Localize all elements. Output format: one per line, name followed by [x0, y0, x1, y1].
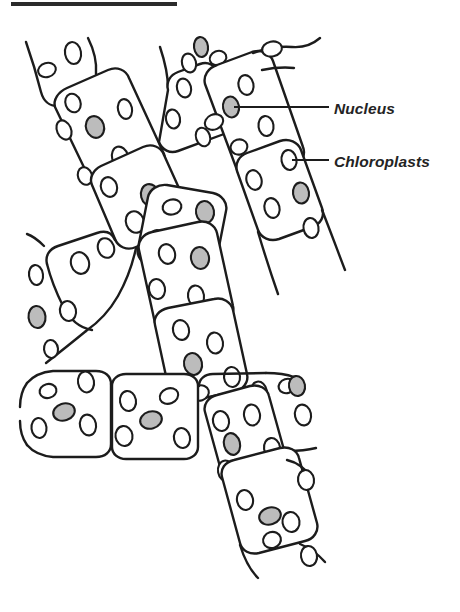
chloroplast: [76, 370, 95, 393]
nucleus-label: Nucleus: [334, 100, 395, 117]
filament-end-stub-center-bottom-2: [258, 232, 278, 294]
filament-end-stub-left-2: [20, 421, 27, 445]
nucleus: [51, 401, 77, 424]
chloroplast: [38, 382, 58, 400]
chloroplast: [36, 61, 57, 79]
chloroplast: [63, 41, 83, 65]
cell-wall-open: [86, 248, 136, 331]
chloroplast: [261, 40, 284, 59]
chloroplast: [78, 413, 98, 437]
chloroplast: [223, 366, 241, 388]
nucleus: [193, 36, 210, 58]
top-rule-bar: [11, 2, 177, 6]
filament-end-stub-center-top: [160, 47, 168, 88]
nucleus: [287, 375, 306, 397]
filament-end-stub-upper-left-2: [88, 38, 96, 74]
filament-end-stub-right: [266, 373, 294, 377]
nucleus: [27, 305, 46, 329]
algae-cell-diagram: Nucleus Chloroplasts: [0, 0, 460, 612]
chloroplast: [43, 339, 59, 358]
filament-end-stub-center-bottom: [322, 210, 345, 270]
chloroplast: [28, 264, 45, 286]
middle-crossing-filament: [138, 185, 248, 403]
chloroplasts-label: Chloroplasts: [334, 153, 430, 170]
cell-wall-open: [27, 371, 111, 384]
filament-end-stub-lower-left-2: [27, 234, 44, 246]
chloroplast: [293, 403, 313, 427]
chloroplast: [299, 545, 318, 567]
chloroplast: [30, 417, 47, 438]
filament-end-stub-left: [20, 383, 27, 407]
branch-stub-upper-right-2: [262, 68, 294, 70]
chloroplast: [68, 250, 91, 276]
figure-root: Nucleus Chloroplasts: [0, 0, 460, 612]
